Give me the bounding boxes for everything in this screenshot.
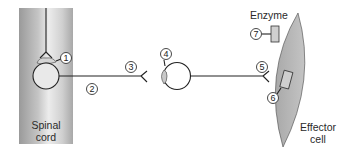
callout-2-number: 2 (89, 84, 94, 94)
enzyme-block (271, 26, 279, 42)
postganglionic-terminal-icon (263, 71, 269, 82)
callout-4-leader (164, 60, 165, 66)
callout-5: 5 (257, 62, 268, 73)
callout-4: 4 (161, 49, 172, 67)
callout-3-number: 3 (128, 62, 133, 72)
callout-2: 2 (87, 84, 98, 95)
ganglionic-cell-body (164, 63, 191, 90)
preganglionic-terminal-icon (141, 71, 147, 82)
effector-cell: Effector cell (275, 13, 336, 147)
callout-1-number: 1 (63, 53, 68, 63)
spinal-cord-label-line2: cord (36, 131, 57, 143)
effector-label-line1: Effector (300, 121, 336, 133)
neuron-pathway-diagram: Spinal cord Effector cell Enzyme 1 2 3 (0, 0, 356, 157)
callout-4-number: 4 (163, 49, 168, 59)
callout-6-number: 6 (270, 93, 275, 103)
preganglionic-cell-body (33, 63, 59, 89)
ganglionic-receptor (162, 70, 168, 84)
spinal-cord-label-line1: Spinal (31, 119, 60, 131)
callout-7: 7 (251, 29, 262, 40)
callout-3: 3 (126, 62, 137, 73)
effector-label-line2: cell (310, 133, 326, 145)
callout-5-number: 5 (259, 62, 264, 72)
callout-7-number: 7 (253, 29, 258, 39)
enzyme-label: Enzyme (250, 9, 288, 21)
ganglionic-neuron (162, 63, 191, 90)
